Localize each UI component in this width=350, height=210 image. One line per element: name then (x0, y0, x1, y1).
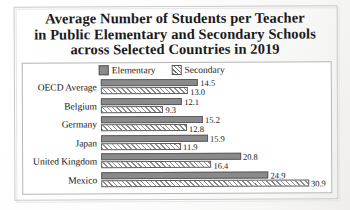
chart-plot-area: Elementary Secondary OECD Average14.513.… (22, 61, 333, 194)
bar-secondary[interactable] (101, 179, 309, 187)
bar-value-elementary: 15.2 (205, 116, 220, 124)
bar-secondary[interactable] (101, 161, 211, 168)
bar-elementary[interactable] (101, 171, 268, 179)
legend-item-elementary: Elementary (99, 65, 156, 75)
bar-group: 20.816.4 (101, 152, 331, 170)
chart-row: Germany15.212.8 (23, 114, 331, 134)
category-label: Mexico (23, 175, 97, 185)
legend-label-secondary: Secondary (185, 65, 225, 75)
legend-label-elementary: Elementary (112, 65, 156, 75)
chart-row: Mexico24.930.9 (23, 170, 331, 190)
bar-group: 15.911.9 (101, 134, 331, 152)
bar-value-secondary: 13.0 (190, 87, 205, 95)
category-label: Germany (23, 120, 97, 130)
bar-value-elementary: 24.9 (271, 171, 286, 179)
bar-value-secondary: 16.4 (213, 161, 228, 169)
bar-value-elementary: 20.8 (243, 153, 258, 161)
legend-swatch-secondary-icon (172, 65, 182, 75)
bar-value-secondary: 11.9 (183, 143, 198, 151)
bar-value-elementary: 15.9 (210, 134, 225, 142)
bar-elementary[interactable] (101, 116, 203, 123)
bar-group: 15.212.8 (101, 115, 331, 133)
category-label: OECD Average (23, 83, 97, 93)
bar-group: 24.930.9 (101, 171, 331, 189)
bar-group: 12.19.3 (101, 97, 331, 115)
legend-swatch-elementary-icon (99, 65, 109, 75)
bar-value-elementary: 12.1 (184, 97, 199, 105)
legend-item-secondary: Secondary (172, 65, 225, 75)
chart-title-line-3: across Selected Countries in 2019 (18, 41, 332, 58)
bar-value-elementary: 14.5 (200, 79, 215, 87)
bar-secondary[interactable] (101, 124, 187, 131)
chart-title-line-1: Average Number of Students per Teacher (18, 10, 332, 27)
bar-elementary[interactable] (101, 134, 208, 141)
bar-secondary[interactable] (101, 106, 164, 113)
bar-elementary[interactable] (101, 97, 182, 104)
bar-elementary[interactable] (101, 79, 198, 86)
chart-row: OECD Average14.513.0 (23, 77, 331, 97)
chart-rows: OECD Average14.513.0Belgium12.19.3German… (23, 77, 331, 189)
bar-group: 14.513.0 (101, 78, 331, 96)
bar-value-secondary: 30.9 (311, 179, 326, 187)
chart-row: United Kingdom20.816.4 (23, 151, 331, 171)
chart-legend: Elementary Secondary (99, 65, 225, 76)
bar-value-secondary: 9.3 (165, 106, 176, 114)
chart-row: Japan15.911.9 (23, 133, 331, 153)
chart-title: Average Number of Students per Teacher i… (18, 10, 332, 58)
bar-elementary[interactable] (101, 153, 241, 161)
category-label: Belgium (23, 101, 97, 111)
category-label: Japan (23, 138, 97, 148)
bar-secondary[interactable] (101, 87, 188, 94)
bar-value-secondary: 12.8 (189, 124, 204, 132)
chart-row: Belgium12.19.3 (23, 96, 331, 116)
category-label: United Kingdom (23, 157, 97, 167)
bar-secondary[interactable] (101, 142, 181, 149)
